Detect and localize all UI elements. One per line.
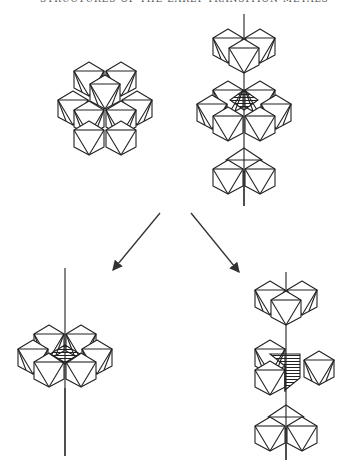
arrow-left: [113, 213, 160, 270]
panel-bottom-left-layer: [18, 268, 112, 456]
panel-bottom-right-chain: [255, 272, 334, 460]
panel-top-left-cluster: [58, 62, 152, 155]
arrows: [113, 213, 239, 272]
figure-diagram: [0, 0, 350, 472]
panel-top-right-stack: [197, 14, 291, 206]
arrow-right: [191, 213, 239, 272]
